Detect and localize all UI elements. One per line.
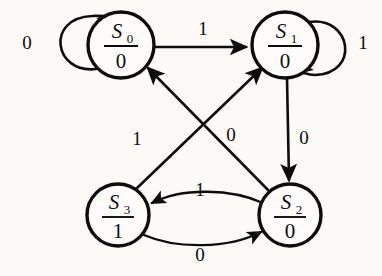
state-node-s3-subscript: 3: [124, 202, 131, 217]
state-node-s3-output: 1: [113, 219, 124, 243]
edge-label-s3-to-s1: 1: [132, 128, 142, 149]
edge-label-s2-to-s3: 1: [195, 179, 205, 200]
edge-s2-to-s3: 1: [152, 179, 263, 203]
state-node-s0-subscript: 0: [127, 31, 134, 46]
edge-label-s2-to-s0: 0: [226, 124, 236, 145]
state-node-s2[interactable]: S 2 0: [259, 184, 321, 246]
state-node-s0-name: S: [112, 19, 123, 43]
state-node-s2-subscript: 2: [296, 202, 303, 217]
state-diagram-container: 0 1 1 0 0 1 1: [0, 0, 382, 276]
state-node-s1-subscript: 1: [291, 31, 298, 46]
edge-s3-to-s2: 0: [144, 232, 261, 265]
state-node-s3-name: S: [109, 190, 120, 214]
edge-label-s1-self-loop: 1: [358, 32, 368, 53]
edge-label-s1-to-s2: 0: [299, 127, 309, 148]
edge-s2-to-s0: 0: [148, 68, 270, 192]
edge-s0-to-s1: 1: [155, 18, 246, 47]
edge-s3-to-s1-path: [136, 68, 262, 189]
edge-s1-to-s2: 0: [287, 78, 309, 180]
edge-s2-to-s0-path: [148, 68, 270, 192]
state-node-s1-output: 0: [280, 49, 291, 73]
edge-label-s0-to-s1: 1: [198, 18, 208, 39]
edge-s3-to-s2-path: [144, 232, 261, 245]
edge-s2-to-s3-path: [152, 192, 263, 203]
state-diagram-canvas: 0 1 1 0 0 1 1: [0, 0, 382, 276]
state-node-s0[interactable]: S 0 0: [88, 12, 154, 78]
state-node-s2-name: S: [281, 190, 292, 214]
state-node-s3[interactable]: S 3 1: [87, 184, 149, 246]
state-node-s1[interactable]: S 1 0: [252, 12, 318, 78]
state-node-s2-output: 0: [285, 219, 296, 243]
edge-label-s3-to-s2: 0: [195, 244, 205, 265]
state-node-s0-output: 0: [116, 49, 127, 73]
edge-s3-to-s1: 1: [132, 68, 262, 189]
edge-s1-to-s2-path: [287, 78, 289, 180]
edge-label-s0-self-loop: 0: [22, 32, 32, 53]
state-node-s1-name: S: [276, 19, 287, 43]
